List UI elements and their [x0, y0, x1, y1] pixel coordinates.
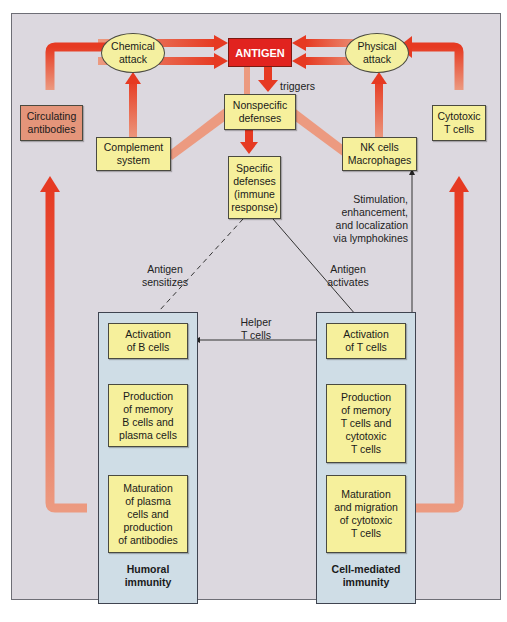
physical-attack-label: Physical attack: [357, 40, 396, 66]
humoral-immunity-title: Humoral immunity: [99, 563, 197, 589]
cell-mediated-step-2-label: Production of memory T cells and cytotox…: [341, 391, 392, 456]
complement-system-label: Complement system: [104, 141, 164, 167]
humoral-step-2: Production of memory B cells and plasma …: [108, 384, 188, 447]
humoral-step-3: Maturation of plasma cells and productio…: [108, 475, 188, 553]
cell-mediated-step-1: Activation of T cells: [326, 323, 406, 359]
humoral-step-1: Activation of B cells: [108, 323, 188, 359]
cell-mediated-step-3: Maturation and migration of cytotoxic T …: [326, 475, 406, 553]
nonspecific-defenses-label: Nonspecific defenses: [233, 99, 287, 125]
humoral-step-3-label: Maturation of plasma cells and productio…: [118, 482, 178, 547]
nk-cells-macrophages-label: NK cells Macrophages: [348, 141, 412, 167]
circulating-antibodies-label: Circulating antibodies: [27, 110, 77, 136]
chemical-attack-node: Chemical attack: [101, 33, 165, 73]
antigen-activates-label: Antigen activates: [318, 263, 378, 289]
antigen-sensitizes-label: Antigen sensitizes: [135, 263, 195, 289]
physical-attack-node: Physical attack: [345, 33, 409, 73]
cell-mediated-step-1-label: Activation of T cells: [343, 328, 389, 354]
circulating-antibodies-box: Circulating antibodies: [20, 105, 83, 141]
humoral-step-1-label: Activation of B cells: [125, 328, 171, 354]
cytotoxic-t-cells-label: Cytotoxic T cells: [437, 110, 480, 136]
antigen-node: ANTIGEN: [228, 38, 292, 67]
cell-mediated-immunity-title: Cell-mediated immunity: [317, 563, 415, 589]
chemical-attack-label: Chemical attack: [111, 40, 155, 66]
nonspecific-defenses-box: Nonspecific defenses: [224, 94, 296, 130]
antigen-label: ANTIGEN: [235, 47, 285, 59]
specific-defenses-label: Specific defenses (immune response): [231, 162, 278, 214]
cell-mediated-step-2: Production of memory T cells and cytotox…: [326, 384, 406, 463]
triggers-label: triggers: [280, 80, 315, 93]
stimulation-label: Stimulation, enhancement, and localizati…: [330, 193, 408, 245]
humoral-step-2-label: Production of memory B cells and plasma …: [119, 390, 177, 442]
specific-defenses-box: Specific defenses (immune response): [228, 156, 281, 219]
complement-system-box: Complement system: [96, 137, 171, 171]
helper-t-cells-label: Helper T cells: [236, 316, 276, 342]
cell-mediated-step-3-label: Maturation and migration of cytotoxic T …: [334, 488, 398, 540]
nk-cells-macrophages-box: NK cells Macrophages: [342, 137, 417, 171]
cytotoxic-t-cells-box: Cytotoxic T cells: [432, 105, 486, 141]
